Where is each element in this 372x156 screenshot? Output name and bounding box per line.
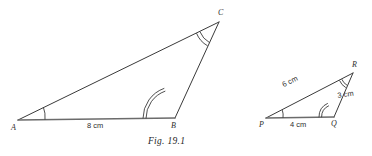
angle-mark-r-inner <box>342 79 347 85</box>
side-label-ab: 8 cm <box>87 122 103 130</box>
side-label-qr: 3 cm <box>337 90 354 100</box>
segment-cb <box>175 22 219 118</box>
vertex-label-p: P <box>259 121 264 129</box>
segment-pq <box>266 117 334 118</box>
angle-mark-a <box>43 107 45 120</box>
triangle-abc <box>18 22 219 120</box>
angle-mark-p <box>282 110 283 118</box>
angle-mark-b-inner <box>146 91 165 118</box>
segment-ab <box>18 118 175 120</box>
vertex-label-q: Q <box>331 120 337 128</box>
vertex-label-a: A <box>11 124 16 132</box>
figure-drawing-canvas <box>0 0 372 156</box>
segment-ac <box>18 22 219 120</box>
vertex-label-c: C <box>218 9 223 17</box>
vertex-label-b: B <box>171 122 176 130</box>
side-label-pq: 4 cm <box>290 121 306 129</box>
vertex-label-r: R <box>352 61 357 69</box>
geometry-figure: A B C 8 cm P Q R 6 cm 3 cm 4 cm Fig. 19.… <box>0 0 372 156</box>
figure-caption: Fig. 19.1 <box>148 136 185 146</box>
